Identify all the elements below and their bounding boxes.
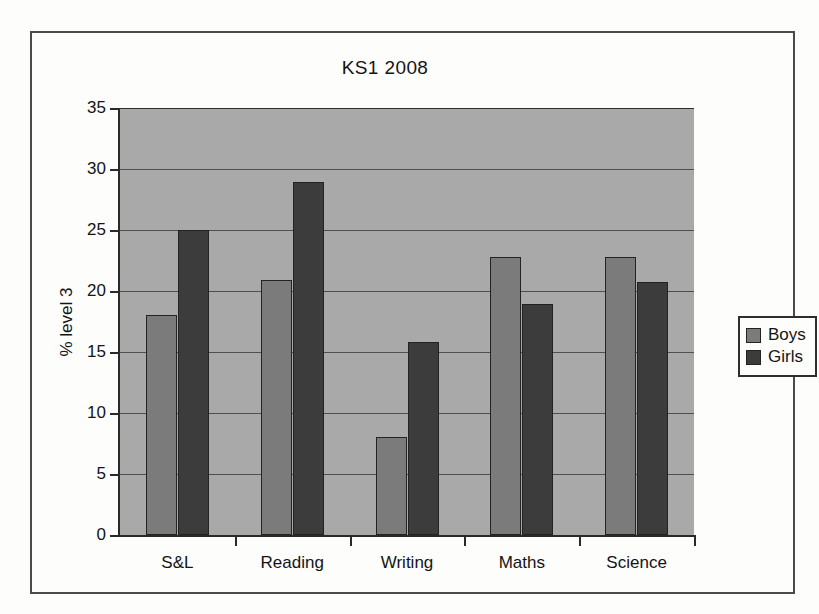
y-axis-tick bbox=[110, 535, 120, 537]
bar-girls-writing bbox=[408, 342, 439, 535]
legend-swatch-icon bbox=[746, 328, 761, 343]
y-axis-tick bbox=[110, 230, 120, 232]
y-axis-tick bbox=[110, 108, 120, 110]
y-axis-tick bbox=[110, 352, 120, 354]
legend-label: Boys bbox=[768, 325, 806, 345]
x-axis-label-maths: Maths bbox=[499, 553, 545, 573]
x-axis-label-science: Science bbox=[606, 553, 666, 573]
x-axis-tick bbox=[694, 535, 696, 546]
bar-boys-science bbox=[605, 257, 636, 535]
bar-boys-maths bbox=[490, 257, 521, 535]
legend: BoysGirls bbox=[738, 316, 817, 377]
legend-swatch-icon bbox=[746, 350, 761, 365]
y-axis-tick bbox=[110, 474, 120, 476]
bar-girls-science bbox=[637, 282, 668, 535]
bar-girls-maths bbox=[522, 304, 553, 535]
x-axis-label-reading: Reading bbox=[261, 553, 324, 573]
x-axis-label-s-l: S&L bbox=[161, 553, 193, 573]
y-axis-label: 0 bbox=[97, 525, 106, 545]
y-axis-title: % level 3 bbox=[56, 108, 78, 535]
plot-area: 05101520253035 S&LReadingWritingMathsSci… bbox=[118, 108, 694, 537]
y-axis-tick bbox=[110, 169, 120, 171]
y-axis-label: 5 bbox=[97, 464, 106, 484]
chart-title: KS1 2008 bbox=[32, 57, 793, 79]
bar-boys-reading bbox=[261, 280, 292, 535]
y-axis-label: 20 bbox=[87, 281, 106, 301]
legend-label: Girls bbox=[768, 347, 803, 367]
x-axis-tick bbox=[350, 535, 352, 546]
y-axis-label: 35 bbox=[87, 98, 106, 118]
legend-item-boys: Boys bbox=[746, 325, 806, 345]
y-axis-label: 30 bbox=[87, 159, 106, 179]
bar-girls-reading bbox=[293, 182, 324, 535]
x-axis-tick bbox=[464, 535, 466, 546]
bar-boys-writing bbox=[376, 437, 407, 535]
x-axis-label-writing: Writing bbox=[381, 553, 434, 573]
y-axis-title-text: % level 3 bbox=[57, 287, 77, 356]
x-axis-tick bbox=[579, 535, 581, 546]
chart-title-text: KS1 2008 bbox=[342, 57, 429, 78]
y-axis-label: 15 bbox=[87, 342, 106, 362]
y-axis-label: 25 bbox=[87, 220, 106, 240]
bar-girls-s-l bbox=[178, 230, 209, 535]
x-axis-tick bbox=[235, 535, 237, 546]
y-axis-label: 10 bbox=[87, 403, 106, 423]
bar-boys-s-l bbox=[146, 315, 177, 535]
y-axis-tick bbox=[110, 291, 120, 293]
scanned-chart-page: KS1 2008 % level 3 05101520253035 S&LRea… bbox=[0, 0, 819, 614]
bars-layer bbox=[120, 108, 694, 535]
legend-item-girls: Girls bbox=[746, 347, 806, 367]
figure-frame: KS1 2008 % level 3 05101520253035 S&LRea… bbox=[30, 31, 795, 594]
y-axis-tick bbox=[110, 413, 120, 415]
